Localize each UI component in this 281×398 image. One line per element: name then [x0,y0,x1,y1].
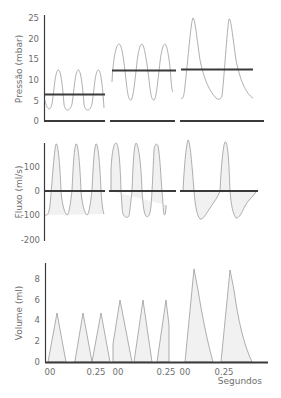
pressure-y-label: Pressão (mbar) [14,35,24,103]
x-axis-label: Segundos [218,376,263,386]
pressure-chart: Pressão (mbar) 0 5 10 15 20 25 [14,13,264,126]
pressure-tick-10: 10 [28,75,39,85]
pressure-trace-high [181,18,253,99]
flow-chart: Fluxo (ml/s) 100 0 -100 -200 [14,140,258,245]
pressure-tick-25: 25 [28,13,39,23]
volume-y-label: Volume (ml) [14,286,24,341]
flow-tick-neg100: -100 [21,210,40,220]
flow-trace-low [45,144,104,215]
volume-chart: Volume (ml) 0 2 4 6 8 00 0.25 00 0.25 00… [14,263,268,386]
flow-trace-mid [111,143,166,217]
volume-trace-high [185,269,252,362]
x-tick-00-2: 00 [113,367,124,377]
flow-tick-neg200: -200 [21,235,40,245]
volume-trace-mid [113,300,169,362]
x-tick-025-2: 0.25 [157,367,176,377]
flow-tick-100: 100 [24,162,40,172]
flow-tick-0: 0 [35,186,40,196]
x-tick-00-1: 00 [45,367,56,377]
pressure-trace-low [45,70,104,110]
ventilation-waveform-figure: Pressão (mbar) 0 5 10 15 20 25 Fluxo (ml… [0,0,281,398]
pressure-trace-mid [112,44,173,100]
volume-tick-8: 8 [35,274,40,284]
volume-tick-6: 6 [35,295,40,305]
volume-tick-2: 2 [35,336,40,346]
x-tick-025-1: 0.25 [87,367,106,377]
pressure-tick-15: 15 [28,54,39,64]
pressure-tick-5: 5 [34,96,39,106]
volume-trace-low [48,313,110,362]
volume-tick-0: 0 [35,357,40,367]
volume-tick-4: 4 [35,315,40,325]
pressure-tick-0: 0 [34,116,39,126]
x-tick-00-3: 00 [180,367,191,377]
flow-trace-high [183,140,256,219]
pressure-tick-20: 20 [28,34,39,44]
